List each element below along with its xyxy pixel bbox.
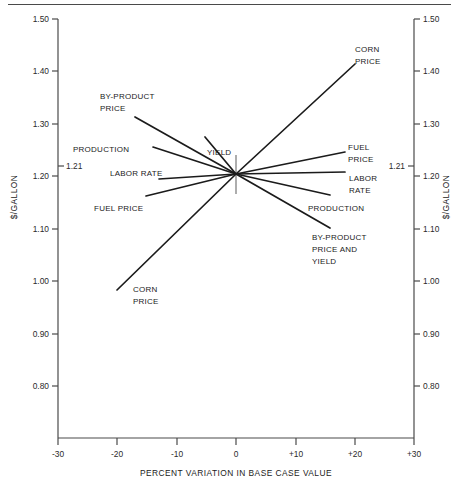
- series-line-production-right: [236, 174, 330, 195]
- label-corn-price-right: CORNPRICE: [355, 45, 381, 66]
- axes-group: [58, 19, 414, 438]
- y-label-left-7: 0.80: [33, 381, 50, 391]
- series-labels-left: BY-PRODUCTPRICE PRODUCTION LABOR RATE FU…: [73, 92, 231, 306]
- label-labor-rate-right: LABORRATE: [349, 174, 377, 195]
- x-axis-ticks: [58, 438, 414, 445]
- label-fuel-price-right-line2: PRICE: [348, 155, 374, 164]
- x-label-1: -20: [111, 449, 123, 459]
- label-production-right: PRODUCTION: [308, 204, 364, 213]
- x-label-2: -10: [171, 449, 183, 459]
- label-production-left: PRODUCTION: [73, 145, 129, 154]
- label-by-product-price-left-line2: PRICE: [100, 104, 126, 113]
- base-case-label-left: 1.21: [66, 161, 83, 171]
- y-label-left-6: 0.90: [33, 329, 50, 339]
- label-by-product-price-and-yield-right-line2: PRICE AND: [312, 245, 357, 254]
- x-label-4: +10: [289, 449, 304, 459]
- x-label-5: +20: [348, 449, 363, 459]
- label-corn-price-right-line2: PRICE: [355, 57, 381, 66]
- label-corn-price-right-line1: CORN: [355, 45, 380, 54]
- label-by-product-price-and-yield-right-line3: YIELD: [312, 257, 336, 266]
- chart-page: 1.50 1.40 1.30 1.20 1.10 1.00 0.90 0.80 …: [0, 0, 459, 491]
- y-label-right-0: 1.50: [423, 14, 440, 24]
- label-corn-price-left: CORNPRICE: [133, 285, 159, 306]
- y-label-right-4: 1.10: [423, 224, 440, 234]
- label-labor-rate-right-line1: LABOR: [349, 174, 377, 183]
- y-label-right-5: 1.00: [423, 276, 440, 286]
- label-by-product-price-left-line1: BY-PRODUCT: [100, 92, 155, 101]
- y-axis-right-labels: 1.50 1.40 1.30 1.20 1.10 1.00 0.90 0.80: [423, 14, 440, 391]
- label-corn-price-left-line1: CORN: [133, 285, 158, 294]
- x-label-0: -30: [52, 449, 64, 459]
- series-line-labor-rate-right: [236, 172, 345, 174]
- x-axis-labels: -30 -20 -10 0 +10 +20 +30: [52, 449, 421, 459]
- series-line-by-product-price-left: [135, 117, 236, 174]
- label-labor-rate-right-line2: RATE: [349, 186, 371, 195]
- label-by-product-price-and-yield-right-line1: BY-PRODUCT: [312, 233, 367, 242]
- x-axis-title: PERCENT VARIATION IN BASE CASE VALUE: [140, 468, 332, 478]
- label-corn-price-left-line2: PRICE: [133, 297, 159, 306]
- label-by-product-price-left: BY-PRODUCTPRICE: [100, 92, 155, 113]
- y-label-left-0: 1.50: [33, 14, 50, 24]
- y-axis-title-right: $/GALLON: [441, 175, 451, 220]
- x-label-6: +30: [407, 449, 422, 459]
- y-label-right-1: 1.40: [423, 66, 440, 76]
- y-label-left-4: 1.10: [33, 224, 50, 234]
- y-label-left-3: 1.20: [33, 171, 50, 181]
- label-fuel-price-right-line1: FUEL: [348, 143, 370, 152]
- x-label-3: 0: [234, 449, 239, 459]
- label-by-product-price-and-yield-right: BY-PRODUCTPRICE ANDYIELD: [312, 233, 367, 266]
- y-label-right-7: 0.80: [423, 381, 440, 391]
- y-label-left-2: 1.30: [33, 119, 50, 129]
- y-label-right-2: 1.30: [423, 119, 440, 129]
- series-line-by-product-price-and-yield-right: [236, 174, 330, 228]
- label-fuel-price-left: FUEL PRICE: [94, 204, 143, 213]
- y-label-right-3: 1.20: [423, 171, 440, 181]
- label-labor-rate-left: LABOR RATE: [110, 169, 163, 178]
- y-axis-left-labels: 1.50 1.40 1.30 1.20 1.10 1.00 0.90 0.80: [33, 14, 50, 391]
- series-labels-right: CORNPRICE FUELPRICE LABORRATE PRODUCTION…: [308, 45, 381, 266]
- y-label-left-5: 1.00: [33, 276, 50, 286]
- series-line-fuel-price-right: [236, 152, 345, 174]
- y-label-right-6: 0.90: [423, 329, 440, 339]
- sensitivity-spider-chart: 1.50 1.40 1.30 1.20 1.10 1.00 0.90 0.80 …: [0, 0, 459, 491]
- y-axis-title-left: $/GALLON: [9, 175, 19, 220]
- label-yield: YIELD: [207, 148, 231, 157]
- y-label-left-1: 1.40: [33, 66, 50, 76]
- label-fuel-price-right: FUELPRICE: [348, 143, 374, 164]
- base-case-label-right: 1.21: [389, 161, 406, 171]
